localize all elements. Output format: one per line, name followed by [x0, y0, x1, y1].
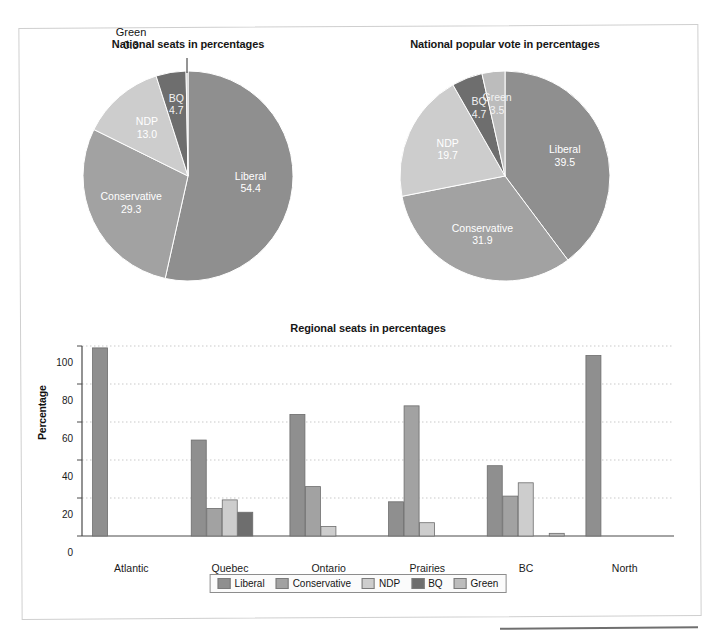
x-tick-label-bc: BC	[476, 562, 576, 574]
pie-chart-national-seats: National seats in percentages Liberal54.…	[38, 38, 338, 293]
pie-seats-svg	[38, 58, 338, 293]
legend-label-green: Green	[471, 578, 499, 589]
bar-liberal-bc	[487, 466, 502, 536]
legend-label-conservative: Conservative	[293, 578, 351, 589]
bar-chart-regional-seats: Regional seats in percentages 0204060801…	[38, 322, 678, 600]
y-tick-label: 0	[43, 547, 73, 558]
pie-label-name-green: Green	[116, 26, 147, 38]
pie-label-value-green: 0.3	[123, 39, 138, 51]
pie-vote-svg	[355, 58, 655, 293]
bar-green-bc	[549, 533, 564, 536]
bar-liberal-north	[586, 356, 601, 537]
legend-item-bq[interactable]: BQ	[411, 578, 442, 589]
bar-conservative-ontario	[305, 487, 320, 536]
bar-conservative-bc	[503, 496, 518, 536]
pie-seats-title: National seats in percentages	[38, 38, 338, 50]
bar-bq-quebec	[238, 512, 253, 536]
scan-artifact-line	[500, 626, 698, 630]
x-tick-label-atlantic: Atlantic	[81, 562, 181, 574]
pie-chart-national-popular-vote: National popular vote in percentages Lib…	[355, 38, 655, 293]
bar-chart-svg	[38, 340, 678, 570]
y-axis-title: Percentage	[36, 385, 48, 440]
bar-chart-legend: LiberalConservativeNDPBQGreen	[210, 574, 507, 593]
x-tick-label-prairies: Prairies	[377, 562, 477, 574]
y-tick-label: 40	[43, 471, 73, 482]
bar-ndp-bc	[518, 483, 533, 536]
bar-liberal-ontario	[290, 414, 305, 536]
legend-swatch-ndp	[362, 578, 375, 589]
legend-item-liberal[interactable]: Liberal	[218, 578, 265, 589]
legend-item-ndp[interactable]: NDP	[362, 578, 400, 589]
y-tick-label: 20	[43, 509, 73, 520]
bar-ndp-prairies	[420, 523, 435, 536]
bar-liberal-prairies	[389, 502, 404, 536]
bar-liberal-quebec	[191, 440, 206, 536]
x-tick-label-quebec: Quebec	[180, 562, 280, 574]
legend-swatch-liberal	[218, 578, 231, 589]
legend-swatch-bq	[411, 578, 424, 589]
bar-conservative-prairies	[404, 406, 419, 536]
bar-chart-plot-area: 020406080100AtlanticQuebecOntarioPrairie…	[38, 340, 678, 570]
bar-liberal-atlantic	[93, 348, 108, 536]
x-tick-label-north: North	[575, 562, 675, 574]
x-tick-label-ontario: Ontario	[279, 562, 379, 574]
legend-swatch-green	[454, 578, 467, 589]
legend-label-ndp: NDP	[379, 578, 400, 589]
bar-ndp-ontario	[321, 527, 336, 537]
bar-conservative-quebec	[207, 508, 222, 536]
pie-callout-green: Green0.3	[86, 26, 176, 52]
legend-item-conservative[interactable]: Conservative	[276, 578, 351, 589]
legend-item-green[interactable]: Green	[454, 578, 499, 589]
legend-swatch-conservative	[276, 578, 289, 589]
pie-vote-title: National popular vote in percentages	[355, 38, 655, 50]
pie-seats-canvas: Liberal54.4Conservative29.3NDP13.0BQ4.7G…	[38, 58, 338, 293]
y-tick-label: 100	[43, 357, 73, 368]
pie-vote-canvas: Liberal39.5Conservative31.9NDP19.7BQ4.7G…	[355, 58, 655, 293]
bar-ndp-quebec	[222, 500, 237, 536]
legend-label-liberal: Liberal	[235, 578, 265, 589]
bar-chart-title: Regional seats in percentages	[58, 322, 678, 334]
legend-label-bq: BQ	[428, 578, 442, 589]
